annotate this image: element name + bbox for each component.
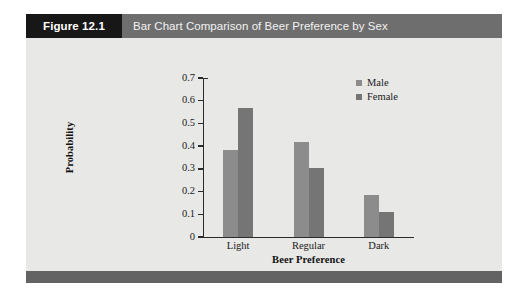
y-axis-title: Probability	[64, 88, 75, 208]
bar-male-regular	[294, 142, 309, 237]
bar-chart: 00.10.20.30.40.50.60.7 Probability Light…	[26, 38, 502, 271]
bar-female-dark	[379, 212, 394, 237]
figure-block: Figure 12.1 Bar Chart Comparison of Beer…	[26, 14, 502, 283]
x-axis-category-label: Dark	[344, 240, 414, 251]
y-axis-tick-label: 0	[169, 232, 195, 243]
bar-female-regular	[309, 168, 324, 237]
legend-swatch-icon	[356, 80, 362, 86]
bar-male-light	[223, 150, 238, 237]
legend-swatch-icon	[356, 94, 362, 100]
x-axis-category-label: Light	[203, 240, 273, 251]
y-axis-tick	[198, 145, 203, 146]
figure-footer-bar	[26, 271, 502, 283]
y-axis-tick	[198, 168, 203, 169]
x-axis-title: Beer Preference	[203, 254, 414, 265]
y-axis-line	[203, 78, 204, 238]
figure-header: Figure 12.1 Bar Chart Comparison of Beer…	[26, 14, 502, 38]
x-axis-category-label: Regular	[274, 240, 344, 251]
y-axis-tick-label: 0.4	[169, 141, 195, 152]
y-axis-tick	[198, 236, 203, 237]
legend-item-female: Female	[356, 90, 436, 104]
y-axis-tick	[198, 123, 203, 124]
figure-title-block: Bar Chart Comparison of Beer Preference …	[122, 14, 502, 38]
y-axis-tick	[198, 191, 203, 192]
x-axis-line	[203, 237, 414, 238]
bar-male-dark	[364, 195, 379, 237]
y-axis-tick	[198, 214, 203, 215]
y-axis-tick-label: 0.7	[169, 73, 195, 84]
bar-female-light	[238, 108, 253, 237]
legend-label: Male	[367, 78, 389, 89]
y-axis-top-cap	[203, 78, 208, 79]
y-axis-tick-label: 0.2	[169, 186, 195, 197]
y-axis-tick-label: 0.5	[169, 118, 195, 129]
y-axis-tick	[198, 77, 203, 78]
figure-number-label: Figure 12.1	[43, 20, 105, 32]
figure-body: 00.10.20.30.40.50.60.7 Probability Light…	[26, 38, 502, 271]
y-axis-tick-labels: 00.10.20.30.40.50.60.7	[165, 38, 195, 271]
chart-legend: MaleFemale	[356, 76, 436, 104]
legend-item-male: Male	[356, 76, 436, 90]
y-axis-tick-label: 0.1	[169, 209, 195, 220]
y-axis-tick	[198, 100, 203, 101]
legend-label: Female	[367, 92, 398, 103]
y-axis-tick-label: 0.3	[169, 163, 195, 174]
figure-title-label: Bar Chart Comparison of Beer Preference …	[133, 20, 388, 32]
figure-number-block: Figure 12.1	[26, 14, 122, 38]
y-axis-tick-label: 0.6	[169, 95, 195, 106]
